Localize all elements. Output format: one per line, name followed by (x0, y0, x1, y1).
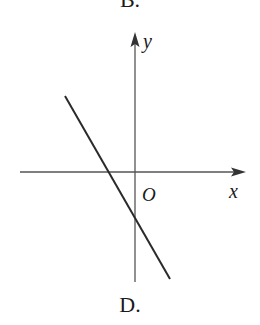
origin-label: O (142, 184, 156, 205)
coordinate-graph: y O x (0, 0, 260, 325)
x-axis-label: x (228, 180, 238, 202)
y-axis-label: y (141, 30, 152, 53)
option-d-label: D. (0, 292, 260, 318)
